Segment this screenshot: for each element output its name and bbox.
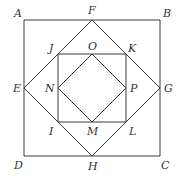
point-label-a: A	[13, 7, 22, 20]
point-label-m: M	[86, 125, 99, 138]
point-label-i: I	[48, 125, 54, 138]
nested-squares-diagram: ABCDFGHEJKLIOPMN	[0, 0, 179, 182]
diagram-canvas: ABCDFGHEJKLIOPMN	[0, 0, 179, 182]
point-label-j: J	[47, 42, 54, 55]
inner-square-JKLI	[58, 54, 126, 122]
point-label-h: H	[87, 160, 98, 173]
point-label-d: D	[13, 159, 23, 172]
point-label-f: F	[87, 4, 96, 17]
point-label-c: C	[161, 159, 170, 172]
point-label-p: P	[129, 82, 138, 95]
point-label-e: E	[12, 82, 21, 95]
point-label-n: N	[44, 82, 55, 95]
inner-diamond-OPMN	[58, 54, 126, 122]
point-label-b: B	[162, 7, 171, 20]
point-label-g: G	[164, 82, 173, 95]
labels-group: ABCDFGHEJKLIOPMN	[12, 4, 173, 173]
point-label-k: K	[127, 42, 137, 55]
point-label-l: L	[128, 125, 136, 138]
point-label-o: O	[88, 40, 97, 53]
